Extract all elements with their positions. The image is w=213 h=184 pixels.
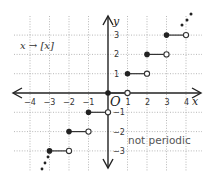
lower-left-ellipsis-icon: [41, 156, 50, 171]
step-function-chart: −4−3−2−11234321−1−2−3 x y O x → [x] not …: [0, 0, 213, 184]
x-tick-label: −2: [63, 98, 75, 107]
x-tick-label: 1: [126, 98, 131, 107]
open-endpoint: [183, 33, 188, 38]
closed-endpoint: [164, 32, 170, 38]
y-axis-label: y: [112, 15, 120, 28]
origin-label: O: [110, 94, 121, 109]
open-endpoint: [125, 90, 130, 95]
function-label: x → [x]: [20, 40, 54, 51]
closed-endpoint: [144, 52, 150, 58]
x-tick-label: 2: [145, 98, 150, 107]
open-endpoint: [86, 129, 91, 134]
step-segment: [86, 110, 111, 116]
closed-endpoint: [66, 129, 72, 135]
x-tick-label: 3: [165, 98, 170, 107]
step-segment: [164, 32, 189, 38]
step-segment: [47, 148, 72, 154]
x-tick-label: 4: [184, 98, 189, 107]
y-tick-label: 2: [114, 50, 119, 59]
not-periodic-annotation: not periodic: [128, 134, 191, 146]
upper-right-ellipsis-icon: [181, 13, 193, 27]
x-tick-label: −1: [83, 98, 95, 107]
x-tick-label: −4: [24, 98, 36, 107]
step-segment: [66, 129, 91, 135]
step-segment: [125, 71, 150, 77]
open-endpoint: [144, 71, 149, 76]
closed-endpoint: [86, 110, 92, 116]
y-tick-label: −1: [113, 108, 125, 117]
y-tick-label: 3: [114, 31, 119, 40]
x-axis-label: x: [192, 95, 199, 108]
open-endpoint: [66, 148, 71, 153]
open-endpoint: [164, 52, 169, 57]
step-segment: [144, 52, 169, 58]
open-endpoint: [105, 110, 110, 115]
y-tick-label: 1: [114, 70, 119, 79]
x-tick-label: −3: [44, 98, 56, 107]
y-tick-label: −2: [113, 128, 125, 137]
closed-endpoint: [125, 71, 131, 77]
closed-endpoint: [105, 90, 111, 96]
y-tick-label: −3: [113, 147, 125, 156]
closed-endpoint: [47, 148, 53, 154]
